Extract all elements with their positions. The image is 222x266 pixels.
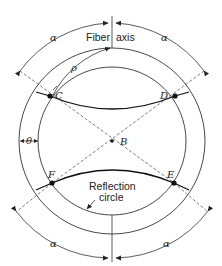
rho-arrow — [53, 48, 110, 95]
label-b: B — [119, 136, 127, 147]
alpha-label-ul: α — [50, 32, 57, 43]
rho-label: ρ — [70, 62, 77, 73]
point-b — [110, 139, 114, 143]
axis-label: axis — [116, 31, 135, 43]
point-f — [49, 180, 54, 185]
alpha-label-ur: α — [161, 32, 168, 43]
point-c — [47, 93, 52, 98]
diagonal-c-e — [20, 71, 174, 183]
label-f: F — [47, 169, 56, 180]
diagonal-e-ext — [174, 183, 208, 212]
alpha-arc-lower-left — [16, 211, 108, 258]
label-e: E — [166, 169, 175, 180]
reflection-leader — [87, 200, 95, 209]
point-e — [171, 180, 176, 185]
theta-label: θ — [26, 135, 32, 146]
alpha-label-lr: α — [163, 238, 170, 249]
point-d — [172, 93, 177, 98]
fiber-diagram: Fiber axis Reflection circle α α α α ρ θ… — [0, 0, 222, 266]
fiber-label: Fiber — [86, 31, 110, 43]
label-c: C — [55, 90, 63, 101]
alpha-arc-lower-right — [116, 211, 208, 258]
label-d: D — [159, 90, 168, 101]
alpha-label-ll: α — [50, 238, 57, 249]
circle-label: circle — [99, 191, 124, 203]
